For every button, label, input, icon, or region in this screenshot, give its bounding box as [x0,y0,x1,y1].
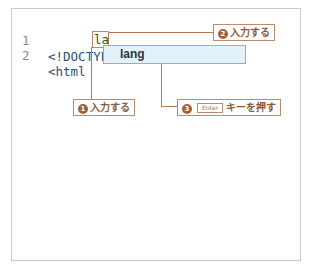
step-number-badge: 2 [218,29,228,39]
enter-key-icon: Enter [197,103,223,113]
callout-step1: 1入力する [73,99,135,116]
callout-step2: 2入力する [213,24,275,41]
autocomplete-item-lang[interactable]: lang [120,47,145,61]
callout-label: 入力する [230,27,270,38]
step-number-badge: 1 [78,104,88,114]
line-number: 2 [22,48,32,64]
line-number: 1 [22,33,32,49]
line-code: <html [48,64,93,80]
connector-step3-h [161,106,177,107]
autocomplete-popup: lang [103,45,246,64]
callout-label: キーを押す [226,102,276,113]
callout-step3: 3Enterキーを押す [177,99,281,116]
connector-step2 [109,32,213,33]
connector-step1 [91,47,92,99]
callout-label: 入力する [90,102,130,113]
step-number-badge: 3 [182,104,192,114]
code-line-2: 2 <html [0,32,15,80]
connector-step3-v [161,64,162,107]
